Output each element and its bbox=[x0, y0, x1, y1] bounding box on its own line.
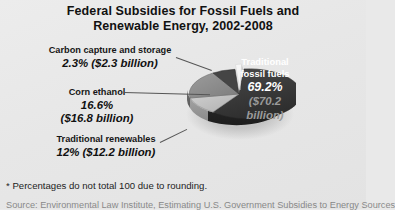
pie-callout-carbon-capture-name: Carbon capture and storage bbox=[30, 44, 190, 57]
chart-title-line1: Federal Subsidies for Fossil Fuels and bbox=[67, 4, 299, 18]
pie-callout-carbon-capture-value: 2.3% ($2.3 billion) bbox=[30, 57, 190, 71]
pie-callout-corn-ethanol-percent: 16.6% bbox=[34, 99, 160, 113]
chart-footnote: * Percentages do not total 100 due to ro… bbox=[6, 180, 207, 191]
chart-title: Federal Subsidies for Fossil Fuels and R… bbox=[0, 4, 366, 34]
pie-callout-traditional-renewables: Traditional renewables 12% ($12.2 billio… bbox=[26, 133, 186, 159]
pie-callout-traditional-renewables-name: Traditional renewables bbox=[26, 133, 186, 146]
pie-callout-carbon-capture: Carbon capture and storage 2.3% ($2.3 bi… bbox=[30, 44, 190, 70]
pie-chart bbox=[178, 42, 296, 150]
chart-source: Source: Environmental Law Institute, Est… bbox=[6, 200, 395, 210]
chart-title-line2: Renewable Energy, 2002-2008 bbox=[0, 19, 366, 34]
pie-callout-corn-ethanol-amount: ($16.8 billion) bbox=[34, 112, 160, 126]
pie-callout-traditional-renewables-value: 12% ($12.2 billion) bbox=[26, 146, 186, 160]
pie-chart-svg bbox=[178, 42, 296, 150]
